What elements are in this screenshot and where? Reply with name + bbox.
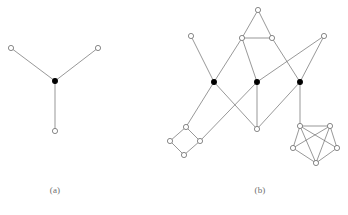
graph-edge xyxy=(242,10,258,38)
graph-node-filled xyxy=(298,80,303,85)
graph-edge xyxy=(186,82,214,127)
graph-edge xyxy=(184,141,200,155)
graph-node-open xyxy=(95,45,100,50)
graph-panel-a xyxy=(8,45,100,133)
graph-node-open xyxy=(255,7,260,12)
graph-edge xyxy=(258,10,272,38)
graph-node-layer xyxy=(8,45,100,133)
graph-edge xyxy=(257,36,324,82)
panel-a-caption: (a) xyxy=(38,185,72,195)
graph-edge xyxy=(242,38,257,82)
graph-node-open xyxy=(290,145,295,150)
graph-edge-layer xyxy=(170,10,337,163)
graph-edge xyxy=(257,82,300,129)
graph-edge xyxy=(293,126,330,148)
graph-node-layer xyxy=(167,7,339,165)
graph-node-open xyxy=(327,123,332,128)
panel-b-caption: (b) xyxy=(243,185,277,195)
graph-edge xyxy=(170,127,186,141)
graph-node-open xyxy=(321,33,326,38)
graph-node-open xyxy=(239,35,244,40)
graph-node-open xyxy=(269,35,274,40)
graph-edge xyxy=(11,48,55,81)
graph-edge xyxy=(55,48,98,81)
graph-edge-layer xyxy=(11,48,98,131)
graph-edge xyxy=(300,126,337,148)
graph-edge xyxy=(191,36,214,82)
graph-node-open xyxy=(183,124,188,129)
figure-root: (a) (b) xyxy=(0,0,348,215)
graph-node-open xyxy=(188,33,193,38)
graph-node-filled xyxy=(212,80,217,85)
graph-node-open xyxy=(167,138,172,143)
graph-node-open xyxy=(181,152,186,157)
graph-node-open xyxy=(8,45,13,50)
graph-node-filled xyxy=(255,80,260,85)
graph-node-open xyxy=(334,145,339,150)
graph-edge xyxy=(272,38,300,82)
graph-edge xyxy=(214,38,242,82)
graph-node-open xyxy=(297,123,302,128)
graph-edge xyxy=(316,126,330,163)
graph-node-open xyxy=(52,128,57,133)
graph-node-open xyxy=(254,126,259,131)
graph-node-filled xyxy=(53,79,58,84)
graph-node-open xyxy=(313,160,318,165)
graph-diagram-canvas xyxy=(0,0,348,215)
graph-edge xyxy=(300,36,324,82)
graph-panel-b xyxy=(167,7,339,165)
graph-node-open xyxy=(197,138,202,143)
